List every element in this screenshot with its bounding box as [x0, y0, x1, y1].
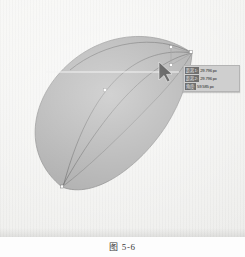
tooltip-value-angle: 59.585 px: [196, 83, 214, 90]
tooltip-row-distance-2: 距离 2: 29.796 px: [185, 75, 238, 82]
tooltip-row-distance-1: 距离 1: 29.796 px: [185, 67, 238, 74]
tooltip-value-distance-1: 29.796 px: [199, 67, 217, 74]
scanned-book-page: 距离 1: 29.796 px 距离 2: 29.796 px 角度: 59.5…: [0, 0, 245, 257]
anchor-point: [61, 185, 64, 188]
anchor-point: [170, 46, 173, 49]
anchor-point: [170, 64, 173, 67]
tooltip-value-distance-2: 29.796 px: [199, 75, 217, 82]
vector-artwork-canvas[interactable]: [0, 0, 245, 237]
tooltip-label-angle: 角度:: [185, 83, 196, 90]
anchor-point: [189, 50, 192, 53]
tooltip-label-distance-1: 距离 1:: [185, 67, 199, 74]
paper-bottom-edge: [0, 228, 245, 237]
measurement-tooltip: 距离 1: 29.796 px 距离 2: 29.796 px 角度: 59.5…: [183, 65, 240, 92]
anchor-point: [104, 89, 107, 92]
figure-caption: 图 5-6: [0, 240, 245, 253]
leaf-shape-group: [35, 36, 192, 189]
tooltip-label-distance-2: 距离 2:: [185, 75, 199, 82]
tooltip-row-angle: 角度: 59.585 px: [185, 83, 238, 90]
